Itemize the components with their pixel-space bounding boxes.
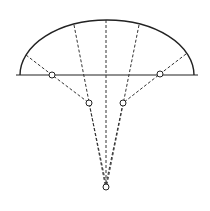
right-baseline-node bbox=[157, 71, 163, 77]
apex-node bbox=[103, 184, 109, 190]
arc bbox=[20, 20, 194, 75]
left-outer-ray bbox=[26, 55, 106, 184]
dashed-rays bbox=[26, 20, 186, 184]
right-outer-ray bbox=[106, 54, 186, 184]
right-inner-node bbox=[120, 100, 126, 106]
left-inner-node bbox=[86, 100, 92, 106]
left-baseline-node bbox=[49, 72, 55, 78]
construction-diagram bbox=[0, 0, 210, 211]
